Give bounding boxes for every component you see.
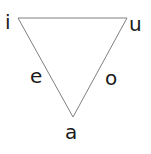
vowel-label-u: u xyxy=(129,14,142,34)
vowel-label-o: o xyxy=(105,68,117,88)
vowel-label-i: i xyxy=(5,12,11,32)
vowel-label-a: a xyxy=(65,122,77,142)
vowel-triangle-diagram: i u e o a xyxy=(0,0,151,154)
vowel-label-e: e xyxy=(30,66,42,86)
